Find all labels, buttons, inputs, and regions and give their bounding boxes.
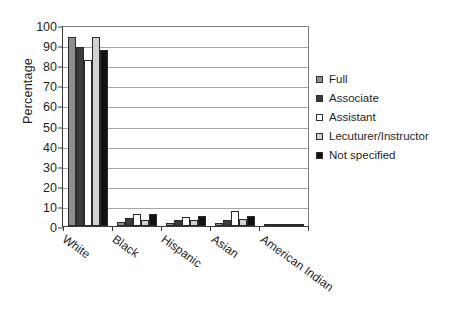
x-tick-mark — [210, 226, 211, 231]
x-axis-label: Asian — [208, 232, 241, 261]
bar — [288, 224, 296, 226]
legend-swatch-icon — [316, 133, 323, 140]
legend-label: Not specified — [329, 150, 395, 162]
y-tick-label: 60 — [43, 100, 63, 114]
y-tick-label: 30 — [43, 161, 63, 175]
legend-swatch-icon — [316, 114, 323, 121]
legend-swatch-icon — [316, 95, 323, 102]
bar — [247, 216, 255, 226]
x-tick-mark — [112, 226, 113, 231]
y-axis-title: Percentage — [21, 26, 35, 156]
bar — [117, 222, 125, 226]
bar-group — [210, 27, 259, 226]
bar — [76, 47, 84, 226]
y-tick-label: 40 — [43, 141, 63, 155]
bar — [141, 220, 149, 226]
bar — [149, 214, 157, 226]
x-axis-labels: WhiteBlackHispanicAsianAmerican Indian — [62, 232, 309, 304]
x-tick-mark — [63, 226, 64, 231]
plot-area: 0102030405060708090100 — [62, 26, 309, 227]
legend-item: Not specified — [316, 150, 429, 162]
bar — [280, 224, 288, 226]
y-tick-label: 80 — [43, 60, 63, 74]
legend-label: Associate — [329, 93, 379, 105]
bar — [272, 224, 280, 226]
bar — [133, 214, 141, 226]
legend-item: Lecuturer/Instructor — [316, 131, 429, 143]
legend-item: Associate — [316, 93, 429, 105]
y-tick-label: 100 — [36, 20, 63, 34]
bar — [264, 224, 272, 226]
bar — [239, 219, 247, 226]
legend-label: Assistant — [329, 112, 376, 124]
legend-item: Assistant — [316, 112, 429, 124]
bar — [296, 224, 304, 226]
bar — [100, 50, 108, 226]
bar — [190, 220, 198, 226]
bar — [223, 220, 231, 226]
bar — [68, 37, 76, 226]
x-axis-label: Hispanic — [159, 232, 204, 270]
bar — [182, 217, 190, 226]
x-tick-mark — [308, 226, 309, 231]
bar — [92, 37, 100, 226]
y-tick-label: 10 — [43, 201, 63, 215]
legend-item: Full — [316, 74, 429, 86]
bar — [198, 216, 206, 226]
legend-swatch-icon — [316, 152, 323, 159]
x-axis-label: White — [60, 232, 93, 261]
bar — [215, 223, 223, 226]
bar — [174, 220, 182, 226]
y-tick-label: 70 — [43, 80, 63, 94]
legend-label: Full — [329, 74, 348, 86]
x-axis-label: Black — [110, 232, 142, 261]
chart-legend: FullAssociateAssistantLecuturer/Instruct… — [316, 74, 429, 162]
bar-group — [63, 27, 112, 226]
bar — [125, 218, 133, 226]
y-tick-label: 90 — [43, 40, 63, 54]
y-tick-label: 50 — [43, 121, 63, 135]
bar-chart: Percentage 0102030405060708090100 WhiteB… — [0, 0, 451, 309]
bar-groups — [63, 27, 308, 226]
bar-group — [259, 27, 308, 226]
bar — [166, 223, 174, 226]
bar — [84, 60, 92, 226]
legend-swatch-icon — [316, 76, 323, 83]
x-axis-label: American Indian — [258, 232, 336, 294]
x-tick-mark — [161, 226, 162, 231]
legend-label: Lecuturer/Instructor — [329, 131, 429, 143]
y-tick-label: 20 — [43, 181, 63, 195]
bar — [231, 211, 239, 226]
bar-group — [161, 27, 210, 226]
bar-group — [112, 27, 161, 226]
x-tick-mark — [259, 226, 260, 231]
